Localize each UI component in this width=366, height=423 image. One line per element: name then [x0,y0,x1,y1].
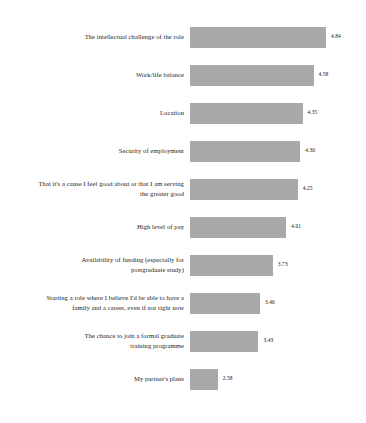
bar-row: My partner's plans2.58 [0,360,366,398]
bar-track: 3.73 [190,246,366,284]
bar-value-label: 4.01 [291,224,301,229]
bar-track: 4.58 [190,56,366,94]
bar-row: Location4.35 [0,94,366,132]
bar [190,331,258,352]
bar-track: 2.58 [190,360,366,398]
bar-category-label: High level of pay [0,222,190,232]
bar [190,255,273,276]
bar-category-label: Work/life balance [0,70,190,80]
bar-row: Starting a role where I believe I'd be a… [0,284,366,322]
bar-category-label: My partner's plans [0,374,190,384]
bar-category-label: The chance to join a formal graduate tra… [0,331,190,350]
bar-row: The intellectual challenge of the role4.… [0,18,366,56]
bar-chart: The intellectual challenge of the role4.… [0,0,366,423]
bar-track: 3.43 [190,322,366,360]
bar [190,179,298,200]
bar-value-label: 3.73 [278,262,288,267]
bar-track: 3.46 [190,284,366,322]
bar-track: 4.01 [190,208,366,246]
bar-value-label: 4.84 [331,34,341,39]
bar-row: That it's a cause I feel good about or t… [0,170,366,208]
bar [190,27,326,48]
bar-track: 4.25 [190,170,366,208]
chart-rows: The intellectual challenge of the role4.… [0,18,366,398]
bar-row: Security of employment4.30 [0,132,366,170]
bar-track: 4.84 [190,18,366,56]
bar-value-label: 4.58 [319,72,329,77]
bar-category-label: Availability of funding (especially for … [0,255,190,274]
bar-value-label: 3.43 [263,338,273,343]
bar-row: Work/life balance4.58 [0,56,366,94]
bar-value-label: 3.46 [265,300,275,305]
bar [190,217,286,238]
bar [190,103,303,124]
bar-category-label: Security of employment [0,146,190,156]
bar-value-label: 4.35 [308,110,318,115]
bar [190,369,218,390]
bar-category-label: Location [0,108,190,118]
bar-category-label: Starting a role where I believe I'd be a… [0,293,190,312]
bar-row: The chance to join a formal graduate tra… [0,322,366,360]
bar-row: High level of pay4.01 [0,208,366,246]
bar-value-label: 2.58 [223,376,233,381]
bar [190,65,314,86]
bar-track: 4.35 [190,94,366,132]
bar-value-label: 4.30 [305,148,315,153]
bar-track: 4.30 [190,132,366,170]
bar-category-label: That it's a cause I feel good about or t… [0,179,190,198]
bar-category-label: The intellectual challenge of the role [0,32,190,42]
bar-row: Availability of funding (especially for … [0,246,366,284]
bar [190,141,300,162]
bar [190,293,260,314]
bar-value-label: 4.25 [303,186,313,191]
